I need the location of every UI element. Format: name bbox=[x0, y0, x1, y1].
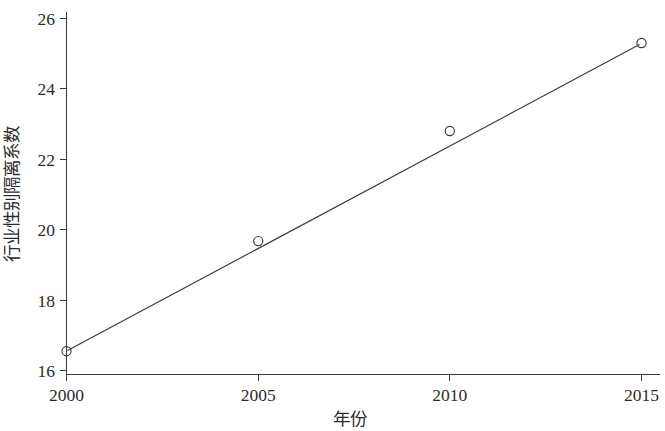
axis-lines bbox=[67, 12, 661, 375]
y-tick-label-22: 22 bbox=[38, 150, 56, 170]
y-axis-ticks bbox=[60, 19, 67, 371]
y-tick-label-26: 26 bbox=[38, 9, 56, 29]
y-tick-label-24: 24 bbox=[38, 79, 56, 99]
line-chart-canvas: 26 24 22 20 18 16 2000 2005 2010 2015 bbox=[0, 0, 665, 431]
x-tick-label-2010: 2010 bbox=[432, 385, 467, 405]
y-tick-label-16: 16 bbox=[38, 361, 56, 381]
y-tick-label-18: 18 bbox=[38, 291, 56, 311]
chart-figure: 26 24 22 20 18 16 2000 2005 2010 2015 bbox=[0, 0, 665, 431]
trend-line bbox=[68, 45, 640, 351]
x-tick-label-2015: 2015 bbox=[624, 385, 659, 405]
y-axis-tick-labels: 26 24 22 20 18 16 bbox=[38, 9, 56, 381]
data-point-2015 bbox=[637, 38, 646, 47]
x-axis-ticks bbox=[67, 375, 642, 382]
data-point-2005 bbox=[254, 237, 263, 246]
data-point-2010 bbox=[445, 126, 454, 135]
x-axis-tick-labels: 2000 2005 2010 2015 bbox=[49, 385, 659, 405]
x-tick-label-2005: 2005 bbox=[241, 385, 276, 405]
y-tick-label-20: 20 bbox=[38, 220, 56, 240]
y-axis-title: 行业性别隔离系数 bbox=[2, 126, 22, 262]
x-axis-title: 年份 bbox=[333, 409, 367, 429]
x-tick-label-2000: 2000 bbox=[49, 385, 84, 405]
